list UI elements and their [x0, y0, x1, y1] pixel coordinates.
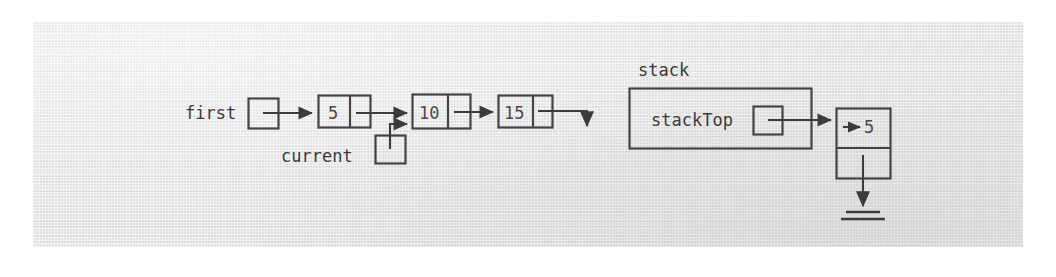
- diagram-canvas: first 5 current 10 15 stack: [0, 0, 1056, 277]
- list-node-1-value: 10: [419, 103, 439, 123]
- ground-null-symbol: [841, 155, 885, 219]
- stacktop-label: stackTop: [651, 110, 733, 130]
- list-node-0-box: [319, 96, 371, 128]
- list-tail-null-arrow: [538, 111, 587, 126]
- list-node-0-value: 5: [328, 103, 338, 123]
- list-node-0: 5: [319, 96, 371, 128]
- figure-page: first 5 current 10 15 stack: [0, 0, 1056, 277]
- stack-node-value: 5: [864, 117, 874, 137]
- current-pointer-label: current: [281, 146, 353, 166]
- first-pointer-label: first: [185, 103, 236, 123]
- list-node-2-value: 15: [504, 103, 524, 123]
- stack-label: stack: [638, 60, 689, 80]
